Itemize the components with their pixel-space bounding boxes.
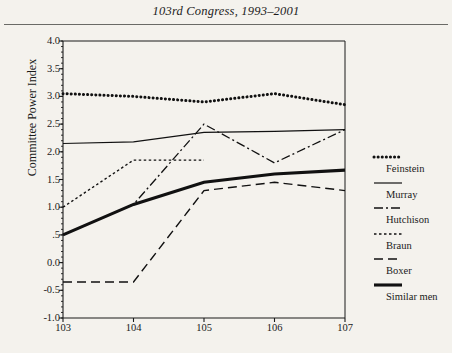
legend-label-feinstein: Feinstein <box>386 163 425 174</box>
series-line-braun <box>63 160 204 207</box>
legend-swatch-murray <box>372 178 404 188</box>
series-line-boxer <box>63 182 345 282</box>
series-line-similar-men <box>63 170 345 235</box>
legend-label-similar-men: Similar men <box>386 291 438 302</box>
legend-swatch-boxer <box>372 254 404 264</box>
series-line-murray <box>63 130 345 144</box>
legend-swatch-hutchison <box>372 203 404 213</box>
legend-label-braun: Braun <box>386 240 412 251</box>
legend-swatch-braun <box>372 229 404 239</box>
legend-label-hutchison: Hutchison <box>386 214 429 225</box>
legend-swatch-similar-men <box>372 280 404 290</box>
legend-label-boxer: Boxer <box>386 265 412 276</box>
chart-page: 103rd Congress, 1993–2001 Committee Powe… <box>0 0 452 353</box>
chart-legend: FeinsteinMurrayHutchisonBraunBoxerSimila… <box>372 0 452 353</box>
legend-label-murray: Murray <box>386 189 418 200</box>
series-line-feinstein <box>63 94 345 105</box>
legend-swatch-feinstein <box>372 152 404 162</box>
